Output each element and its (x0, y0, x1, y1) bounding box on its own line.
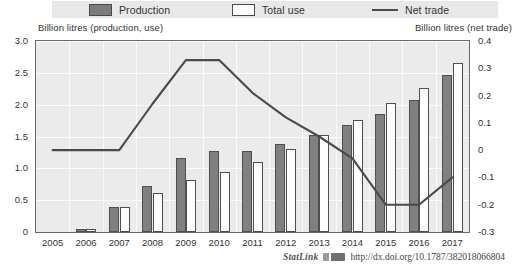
net-trade-line-series (36, 41, 469, 232)
legend-label-production: Production (119, 4, 170, 16)
legend-label-net-trade: Net trade (405, 4, 449, 16)
right-axis-tick-label: -0.3 (478, 226, 510, 237)
statlink-barcode-icon (323, 253, 345, 261)
filled-square-swatch-icon (89, 4, 112, 16)
left-axis-tick-label: 2.0 (0, 99, 28, 110)
plot-inner (36, 41, 469, 232)
legend-item-total-use: Total use (232, 1, 305, 18)
left-axis-tick-label: 1.5 (0, 131, 28, 142)
left-axis-tick-label: 0 (0, 226, 28, 237)
left-axis-tick-label: 3.0 (0, 35, 28, 46)
right-axis-tick-label: 0.3 (478, 62, 510, 73)
legend-item-net-trade: Net trade (372, 1, 449, 18)
statlink-url[interactable]: http://dx.doi.org/10.1787/382018066804 (350, 252, 505, 262)
left-axis-tick-label: 1.0 (0, 162, 28, 173)
x-axis-tick-label: 2017 (432, 237, 472, 248)
right-axis-caption: Billion litres (net trade) (415, 22, 512, 33)
outlined-square-swatch-icon (232, 4, 255, 16)
left-axis-caption: Billion litres (production, use) (38, 22, 163, 33)
right-axis-tick-label: 0.4 (478, 35, 510, 46)
right-axis-tick-label: -0.1 (478, 171, 510, 182)
right-axis-tick-label: 0.2 (478, 90, 510, 101)
legend-item-production: Production (89, 1, 170, 18)
statlink-label: StatLink (283, 252, 318, 262)
right-axis-tick-label: 0 (478, 144, 510, 155)
right-axis-tick-label: 0.1 (478, 117, 510, 128)
left-axis-tick-label: 2.5 (0, 67, 28, 78)
chart-figure: Production Total use Net trade Billion l… (0, 0, 524, 269)
left-axis-tick-label: 0.5 (0, 194, 28, 205)
plot-area (35, 40, 470, 233)
legend-label-total-use: Total use (262, 4, 305, 16)
chart-legend: Production Total use Net trade (52, 1, 498, 18)
statlink-source: StatLink http://dx.doi.org/10.1787/38201… (283, 252, 505, 262)
line-swatch-icon (372, 9, 398, 11)
right-axis-tick-label: -0.2 (478, 199, 510, 210)
